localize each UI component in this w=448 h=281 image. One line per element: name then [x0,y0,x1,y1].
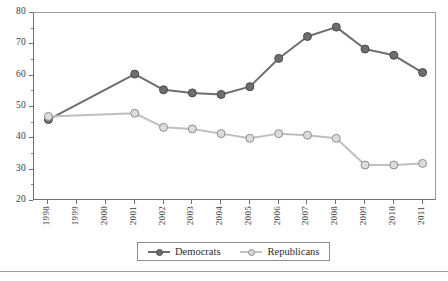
y-axis-tick-label: 40 [16,133,26,143]
data-point[interactable] [246,134,254,142]
x-axis-tick [47,200,48,204]
data-point[interactable] [303,131,311,139]
x-axis-tick [105,200,106,204]
x-axis-tick-label: 2007 [301,206,310,225]
x-axis-tick [306,200,307,204]
legend-label-democrats: Democrats [175,246,220,257]
data-point[interactable] [160,86,168,94]
chart-page: 20304050607080 1998199920002001200220032… [0,0,448,281]
x-axis-tick [76,200,77,204]
chart-legend: Democrats Republicans [137,242,330,261]
data-point[interactable] [419,69,427,77]
y-axis-tick-label: 80 [16,7,26,17]
data-point[interactable] [131,70,139,78]
x-axis-tick [134,200,135,204]
x-axis-labels: 1998199920002001200220032004200520062007… [33,206,436,240]
data-point[interactable] [390,51,398,59]
data-point[interactable] [217,90,225,98]
x-axis-tick [249,200,250,204]
x-axis-tick [364,200,365,204]
x-axis-tick-label: 2009 [359,206,368,225]
x-axis-tick-label: 2002 [158,206,167,225]
series-line [48,113,422,165]
y-axis-tick-label: 20 [16,195,26,205]
data-point[interactable] [361,45,369,53]
y-axis: 20304050607080 [0,0,33,212]
data-point[interactable] [303,33,311,41]
data-point[interactable] [188,125,196,133]
data-point[interactable] [217,130,225,138]
data-point[interactable] [160,123,168,131]
x-axis-tick-label: 2003 [186,206,195,225]
x-axis-tick [335,200,336,204]
legend-item-republicans[interactable]: Republicans [240,246,319,257]
legend-marker-republicans-icon [240,247,262,256]
data-point[interactable] [188,89,196,97]
x-axis-tick-label: 2006 [273,206,282,225]
y-axis-tick-label: 60 [16,70,26,80]
x-axis-tick-label: 2008 [330,206,339,225]
data-point[interactable] [390,161,398,169]
data-point[interactable] [275,54,283,62]
data-point[interactable] [131,109,139,117]
data-point[interactable] [275,130,283,138]
y-axis-tick-label: 70 [16,39,26,49]
y-axis-tick-label: 30 [16,164,26,174]
cropped-title-sliver [44,0,274,2]
data-point[interactable] [44,112,52,120]
legend-marker-democrats-icon [148,247,170,256]
x-axis-tick [220,200,221,204]
data-point[interactable] [419,159,427,167]
x-axis-tick-label: 2004 [215,206,224,225]
data-point[interactable] [361,161,369,169]
series-line [48,27,422,119]
x-axis-tick [393,200,394,204]
data-point[interactable] [332,134,340,142]
x-axis-tick [278,200,279,204]
x-axis-tick-label: 1998 [42,206,51,225]
x-axis-tick [191,200,192,204]
x-axis-ticks [33,200,436,205]
x-axis-tick [163,200,164,204]
data-point[interactable] [332,23,340,31]
x-axis-tick-label: 2001 [129,206,138,225]
y-axis-tick-label: 50 [16,101,26,111]
data-point[interactable] [246,83,254,91]
x-axis-tick-label: 2000 [100,206,109,225]
footer-divider [0,271,448,272]
x-axis-tick-label: 2010 [388,206,397,225]
series-canvas [34,13,437,201]
legend-label-republicans: Republicans [267,246,319,257]
x-axis-tick-label: 2005 [244,206,253,225]
x-axis-tick [422,200,423,204]
x-axis-tick-label: 1999 [71,206,80,225]
plot-area [33,12,436,200]
x-axis-tick-label: 2011 [417,206,426,225]
legend-item-democrats[interactable]: Democrats [148,246,220,257]
